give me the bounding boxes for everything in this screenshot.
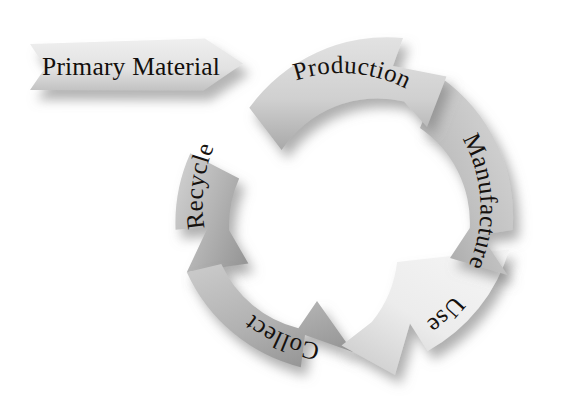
primary-material-label: Primary Material (42, 52, 220, 81)
segment-collect[interactable] (187, 264, 353, 367)
cycle-ring: Production Manufacture Use Collect Recyc… (175, 37, 513, 375)
segment-recycle-shape (175, 153, 248, 272)
segment-collect-shape (187, 264, 353, 367)
lifecycle-diagram: Production Manufacture Use Collect Recyc… (0, 0, 578, 413)
diagram-canvas: Production Manufacture Use Collect Recyc… (0, 0, 578, 413)
segment-recycle[interactable] (175, 153, 248, 272)
